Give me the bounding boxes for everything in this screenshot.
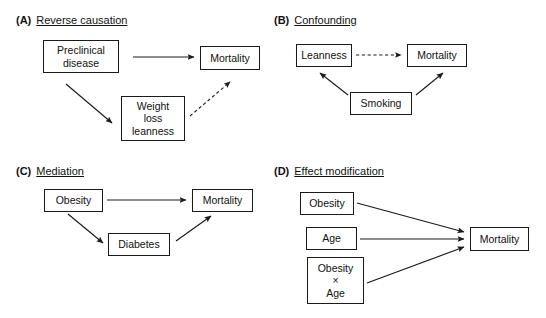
node-diabetes[interactable]: Diabetes (108, 233, 170, 256)
edge-obesity-x-age-to-mortality-d (367, 247, 464, 283)
node-label: Age (307, 232, 356, 245)
node-label: Obesity × Age (308, 262, 363, 300)
node-mortality-d[interactable]: Mortality (470, 227, 529, 251)
node-label: Mortality (193, 194, 252, 207)
node-preclinical-disease[interactable]: Preclinical disease (43, 40, 119, 73)
node-label: Mortality (408, 49, 466, 62)
node-smoking[interactable]: Smoking (350, 92, 412, 115)
node-label: Preclinical disease (44, 44, 118, 69)
node-label: Smoking (351, 97, 411, 110)
node-label: Mortality (471, 233, 528, 246)
edge-smoking-to-leanness-b (320, 73, 348, 95)
causal-diagram-figure: (A)Reverse causation Preclinical disease… (0, 0, 546, 318)
node-mortality-b[interactable]: Mortality (407, 44, 467, 67)
edge-obesity-to-diabetes-c (68, 214, 103, 243)
edge-diabetes-to-mortality-c (176, 216, 211, 241)
node-label: Diabetes (109, 238, 169, 251)
edge-obesity-to-mortality-d (357, 203, 464, 232)
node-mortality-a[interactable]: Mortality (200, 46, 260, 70)
node-age[interactable]: Age (306, 227, 357, 250)
node-weight-loss-leanness[interactable]: Weight loss leanness (121, 96, 185, 141)
node-label: Mortality (201, 52, 259, 65)
node-obesity-d[interactable]: Obesity (300, 192, 354, 215)
node-obesity-x-age[interactable]: Obesity × Age (307, 257, 364, 304)
node-obesity-c[interactable]: Obesity (44, 189, 103, 212)
node-mortality-c[interactable]: Mortality (192, 189, 253, 212)
node-label: Leanness (297, 49, 351, 62)
node-label: Obesity (45, 194, 102, 207)
node-label: Weight loss leanness (122, 100, 184, 138)
edge-smoking-to-mortality-b (416, 73, 443, 95)
node-leanness[interactable]: Leanness (296, 44, 352, 67)
edge-weightloss-to-mortality-a (190, 82, 230, 116)
node-label: Obesity (301, 197, 353, 210)
edge-preclinical-to-weightloss-a (66, 84, 112, 123)
